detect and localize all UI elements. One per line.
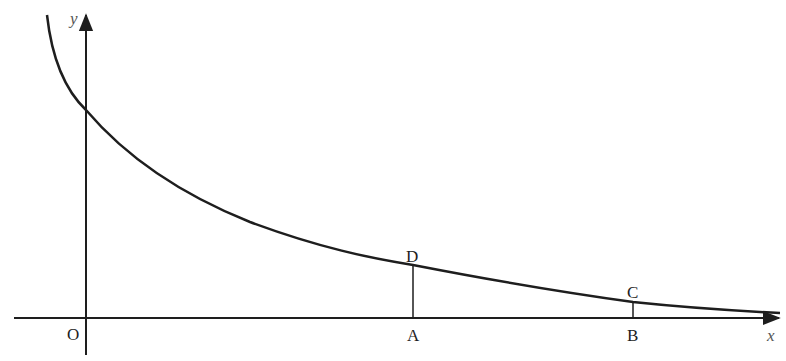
origin-label: O <box>67 325 79 344</box>
y-axis-label: y <box>68 9 78 28</box>
point-b-label: B <box>627 326 638 345</box>
point-d-label: D <box>406 247 418 266</box>
function-graph-diagram: y x O A B D C <box>0 0 786 361</box>
x-axis-label: x <box>766 326 775 345</box>
point-a-label: A <box>407 326 420 345</box>
point-c-label: C <box>627 283 638 302</box>
